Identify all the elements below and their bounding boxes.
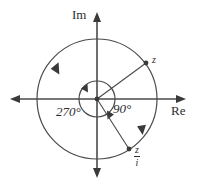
fraction-denominator: i	[134, 158, 140, 169]
real-axis-label: Re	[171, 104, 185, 117]
point-z-over-i-label: z i	[134, 145, 140, 168]
imaginary-axis-down-arrow	[93, 168, 101, 178]
real-axis-right-arrow	[176, 95, 186, 103]
complex-plane-figure: Im Re 270° 90° z z i	[0, 0, 199, 186]
imaginary-axis	[93, 12, 101, 178]
real-axis-left-arrow	[10, 95, 20, 103]
point-z-over-i-dot	[127, 147, 132, 152]
outer-circle-arrow-upper-left	[50, 62, 64, 76]
angle-label-270: 270°	[56, 105, 81, 118]
imaginary-axis-label: Im	[72, 8, 86, 21]
imaginary-axis-up-arrow	[93, 12, 101, 22]
fraction-numerator: z	[134, 145, 140, 156]
angle-label-90: 90°	[113, 102, 131, 115]
origin-dot	[95, 97, 100, 102]
outer-circle-arrow-lower-right	[137, 124, 148, 136]
diagram-canvas	[0, 0, 199, 186]
point-z-label: z	[152, 55, 156, 65]
inner-circle-arrow-upper-left	[81, 84, 92, 95]
ray-to-z	[97, 63, 146, 99]
point-z-dot	[144, 61, 149, 66]
